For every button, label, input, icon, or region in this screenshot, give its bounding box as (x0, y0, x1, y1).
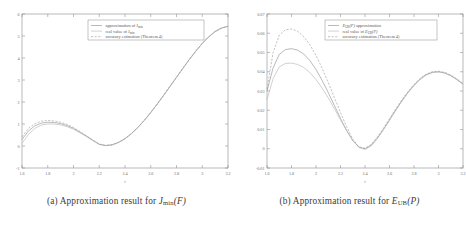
plot-a-ytick-0: -1 (16, 166, 20, 171)
plot-a-ytick-7: 6 (17, 12, 19, 17)
plot-b-xtick-1: 1.8 (289, 171, 294, 176)
plot-b-xtick-2: 2 (315, 171, 317, 176)
plot-a-ytick-3: 2 (17, 100, 19, 105)
plot-a-series-1 (22, 26, 228, 145)
plot-b-xtick-8: 3.2 (460, 171, 465, 176)
caption-a-prefix: (a) (47, 196, 58, 206)
plot-a-xtick-2: 2 (72, 171, 74, 176)
plot-b-ytick-5: 0.04 (257, 69, 265, 74)
plot-a-xtick-4: 2.4 (122, 171, 128, 176)
plot-b-ytick-1: 0 (262, 146, 264, 151)
plot-a-svg: 1.61.822.22.42.62.833.2-10123456 approxi… (0, 0, 233, 186)
plot-b-ytick-6: 0.05 (257, 50, 264, 55)
plot-b-ytick-0: -0.01 (256, 166, 265, 171)
plot-b-series-2 (267, 29, 463, 148)
plot-a-xtick-1: 1.8 (45, 171, 50, 176)
plot-b-legend-item-2: accuracy estimation (Theorem 4) (343, 34, 400, 39)
plot-a-ytick-2: 1 (17, 122, 19, 127)
plot-a-legend: approximation of Jminreal value of Jmina… (88, 20, 204, 40)
plot-a: 1.61.822.22.42.62.833.2-10123456 approxi… (0, 0, 233, 186)
plot-a-xtick-3: 2.2 (97, 171, 102, 176)
plot-a-xtick-8: 3.2 (225, 171, 230, 176)
plot-b-curves (267, 29, 463, 150)
plot-a-xtick-0: 1.6 (19, 171, 24, 176)
plot-b-xtick-3: 2.2 (338, 171, 343, 176)
plot-b-ytick-8: 0.07 (257, 12, 264, 17)
plot-b-ytick-3: 0.02 (257, 108, 264, 113)
plot-b-xlabel: r (364, 179, 366, 184)
plot-a-series-0 (22, 26, 228, 145)
panel-a: 1.61.822.22.42.62.833.2-10123456 approxi… (0, 0, 233, 228)
caption-b-symbol-sub: UB (398, 199, 407, 206)
caption-a: (a) Approximation result for Jmin(F) (0, 196, 233, 206)
plot-b-series-0 (267, 49, 463, 149)
plot-a-ytick-5: 4 (17, 56, 20, 61)
plot-b-xtick-6: 2.8 (411, 171, 416, 176)
plot-b-xtick-5: 2.6 (387, 171, 392, 176)
plot-b: 1.61.822.22.42.62.833.2-0.0100.010.020.0… (233, 0, 466, 186)
caption-a-text: Approximation result for (60, 196, 157, 206)
plot-b-xtick-0: 1.6 (264, 171, 269, 176)
caption-a-symbol-arg: (F) (174, 196, 186, 206)
caption-b: (b) Approximation result for EUB(P) (233, 196, 466, 206)
plot-a-series-2 (22, 26, 228, 145)
plot-b-svg: 1.61.822.22.42.62.833.2-0.0100.010.020.0… (233, 0, 466, 186)
plot-a-xtick-6: 2.8 (174, 171, 179, 176)
plot-b-legend: EUB(P) approximationreal value of EUB(P)… (325, 20, 437, 40)
plot-a-legend-item-2: accuracy estimation (Theorem 4) (106, 34, 163, 39)
caption-b-prefix: (b) (280, 196, 291, 206)
plot-b-series-1 (267, 63, 463, 149)
plot-b-ytick-4: 0.03 (257, 89, 264, 94)
plot-a-xlabel: r (124, 179, 126, 184)
plot-a-ytick-1: 0 (17, 144, 19, 149)
plot-a-ytick-4: 3 (17, 78, 19, 83)
plot-a-xtick-7: 3 (201, 171, 203, 176)
panel-b: 1.61.822.22.42.62.833.2-0.0100.010.020.0… (233, 0, 466, 228)
plot-a-ytick-6: 5 (17, 34, 19, 39)
plot-b-xtick-4: 2.4 (362, 171, 368, 176)
plot-b-ytick-2: 0.01 (257, 127, 264, 132)
caption-a-symbol-sub: min (163, 199, 174, 206)
plot-b-ytick-7: 0.06 (257, 31, 264, 36)
caption-b-symbol-arg: (P) (407, 196, 419, 206)
plot-a-curves (22, 26, 228, 146)
figure-container: 1.61.822.22.42.62.833.2-10123456 approxi… (0, 0, 466, 228)
plot-b-xtick-7: 3 (437, 171, 439, 176)
caption-b-text: Approximation result for (293, 196, 390, 206)
plot-a-xtick-5: 2.6 (148, 171, 153, 176)
